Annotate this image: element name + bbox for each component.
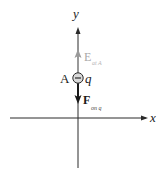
x-axis-arrow-icon bbox=[141, 116, 148, 121]
field-label-subscript: at A bbox=[92, 60, 102, 66]
y-axis-label: y bbox=[71, 6, 79, 21]
force-label-subscript: on q bbox=[91, 105, 102, 111]
diagram-canvas: y x E at A A q F on q bbox=[0, 0, 165, 174]
x-axis-label: x bbox=[149, 110, 156, 125]
point-label: A bbox=[60, 71, 70, 86]
force-label-main: F bbox=[83, 93, 90, 107]
y-axis-arrow-icon bbox=[76, 27, 81, 34]
force-vector bbox=[75, 83, 82, 104]
electric-field-vector bbox=[75, 49, 82, 73]
negative-charge bbox=[73, 73, 83, 83]
charge-label: q bbox=[85, 71, 92, 86]
field-label-main: E bbox=[84, 50, 91, 64]
x-axis bbox=[10, 116, 148, 121]
